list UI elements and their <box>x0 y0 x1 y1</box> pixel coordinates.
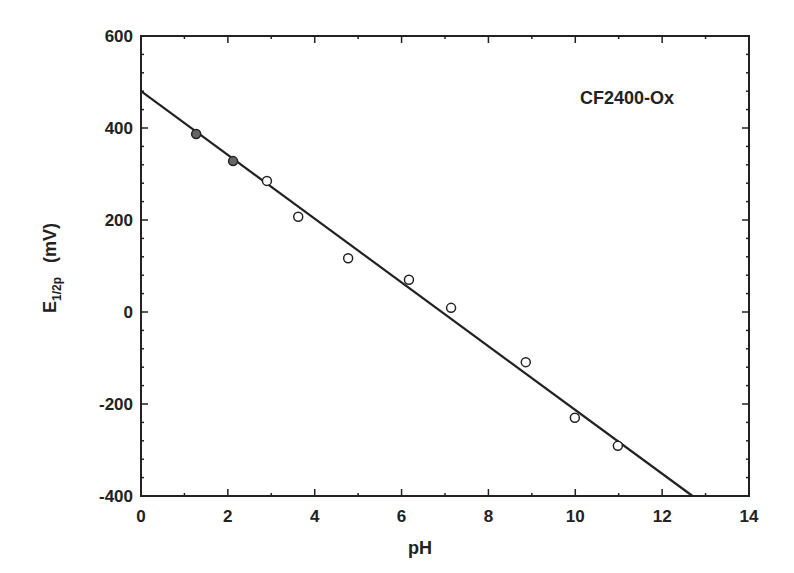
y-axis-title-main: E <box>40 301 60 313</box>
y-tick-label: 600 <box>105 27 133 46</box>
data-point <box>570 413 579 422</box>
data-point <box>344 254 353 263</box>
x-axis-title: pH <box>408 538 432 558</box>
series-annotation: CF2400-Ox <box>580 88 674 108</box>
x-tick-label: 4 <box>310 507 320 526</box>
data-point <box>447 303 456 312</box>
y-tick-label: -200 <box>99 395 133 414</box>
data-point <box>229 157 238 166</box>
data-point <box>404 275 413 284</box>
x-tick-label: 6 <box>397 507 406 526</box>
y-tick-label: 400 <box>105 119 133 138</box>
fit-line <box>141 91 693 496</box>
data-point <box>613 441 622 450</box>
data-point <box>521 358 530 367</box>
data-point <box>192 129 201 138</box>
y-axis-title: E1/2p(mV) <box>40 223 64 313</box>
data-point <box>294 212 303 221</box>
y-axis-title-unit: (mV) <box>40 223 60 263</box>
y-tick-label: 0 <box>124 303 133 322</box>
y-tick-label: 200 <box>105 211 133 230</box>
x-tick-label: 14 <box>740 507 759 526</box>
x-tick-label: 8 <box>484 507 493 526</box>
x-tick-label: 10 <box>566 507 585 526</box>
x-tick-label: 2 <box>223 507 232 526</box>
x-axis-ticks: 02468101214 <box>136 36 759 526</box>
y-axis-title-subscript: 1/2p <box>50 277 64 301</box>
x-tick-label: 0 <box>136 507 145 526</box>
data-points <box>192 129 623 450</box>
chart: 02468101214 -400-2000200400600 CF2400-Ox… <box>0 0 794 573</box>
svg-text:E1/2p(mV): E1/2p(mV) <box>40 223 64 313</box>
data-point <box>262 176 271 185</box>
y-tick-label: -400 <box>99 487 133 506</box>
x-tick-label: 12 <box>653 507 672 526</box>
